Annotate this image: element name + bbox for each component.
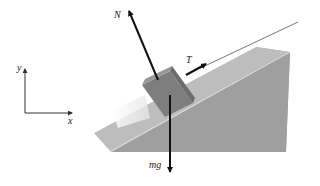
normal-force-arrow bbox=[129, 11, 158, 80]
force-tension: T bbox=[186, 54, 206, 75]
coordinate-axes: y x bbox=[16, 62, 73, 126]
tension-force-label: T bbox=[186, 54, 193, 65]
weight-force-label: mg bbox=[149, 159, 161, 170]
tension-force-arrow bbox=[186, 64, 206, 75]
normal-force-label: N bbox=[113, 9, 122, 20]
force-normal: N bbox=[113, 9, 158, 80]
x-axis-label: x bbox=[67, 115, 73, 126]
incline-diagram: y x N T mg bbox=[0, 0, 320, 186]
y-axis-label: y bbox=[16, 62, 22, 73]
